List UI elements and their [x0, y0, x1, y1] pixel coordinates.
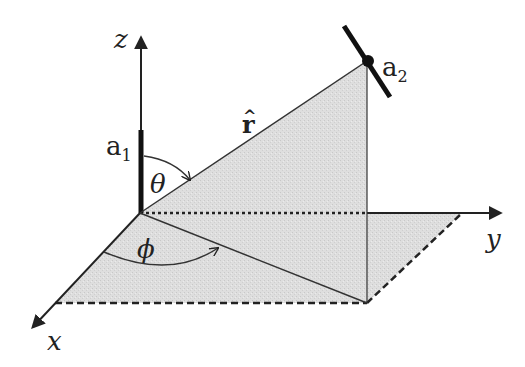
- z-axis-label: z: [113, 24, 128, 54]
- a2-point: [362, 55, 374, 67]
- a2-label: a2: [382, 52, 408, 86]
- phi-label: ϕ: [137, 234, 155, 264]
- a1-label: a1: [106, 131, 132, 165]
- spherical-coordinate-diagram: z y x a1 a2 ^ r θ ϕ: [0, 0, 525, 367]
- r-hat-label: r: [242, 110, 255, 139]
- x-axis-label: x: [47, 326, 62, 356]
- y-axis-label: y: [485, 224, 501, 254]
- theta-label: θ: [150, 169, 166, 199]
